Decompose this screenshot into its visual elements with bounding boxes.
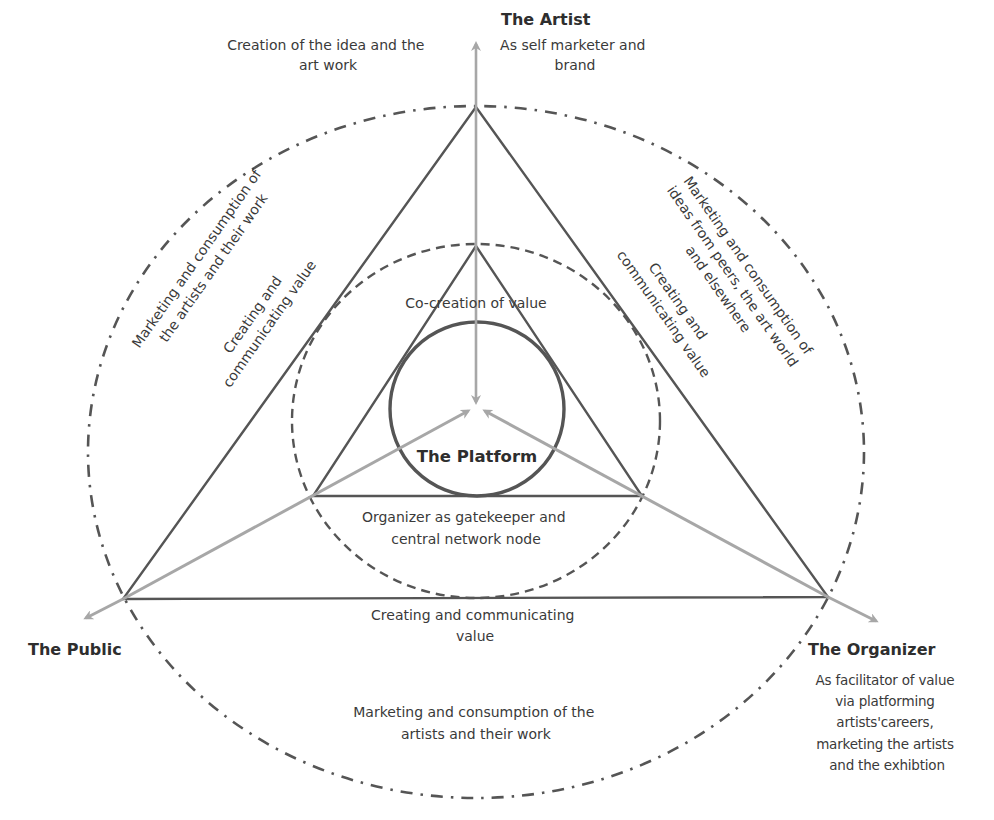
platform-title: The Platform xyxy=(417,447,538,466)
organizer-out-arrow xyxy=(828,597,876,621)
bottom-inner-label: Creating and communicating value xyxy=(371,607,579,644)
bottom-outer-label: Marketing and consumption of the artists… xyxy=(353,704,598,742)
right-outer-label: Marketing and consumption of ideas from … xyxy=(648,172,819,384)
artist-role: As self marketer and brand xyxy=(500,37,650,73)
public-title: The Public xyxy=(28,640,122,659)
public-out-arrow xyxy=(86,599,123,618)
artist-title: The Artist xyxy=(501,10,591,29)
right-outer-label-group: Marketing and consumption of ideas from … xyxy=(648,172,819,384)
gatekeeper-label: Organizer as gatekeeper and central netw… xyxy=(362,509,570,547)
artist-creation-label: Creation of the idea and the art work xyxy=(227,37,429,73)
co-creation-label: Co-creation of value xyxy=(405,295,546,311)
organizer-to-platform-arrow xyxy=(485,411,828,597)
organizer-title: The Organizer xyxy=(808,640,936,659)
public-to-platform-arrow xyxy=(123,411,468,599)
artist-platform-diagram: The Artist As self marketer and brand Cr… xyxy=(0,0,994,820)
organizer-role: As facilitator of value via platforming … xyxy=(816,672,959,773)
